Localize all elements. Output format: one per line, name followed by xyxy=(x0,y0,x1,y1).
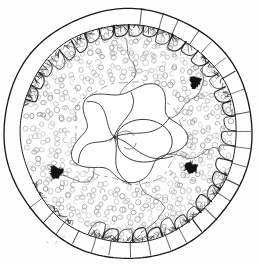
cross-section-drawing xyxy=(0,0,259,264)
figure-root xyxy=(0,0,259,264)
